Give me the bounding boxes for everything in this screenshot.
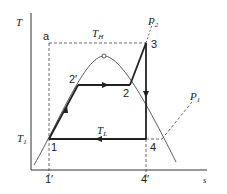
ts-diagram: T s a TH P2 3 2′ 2 P1 TL T1 1 4 1′ 4′ — [0, 0, 227, 194]
p1-label: P1 — [189, 90, 200, 104]
point-2-label: 2 — [123, 87, 129, 99]
th-label: TH — [92, 27, 104, 41]
point-1prime-label: 1′ — [45, 173, 53, 185]
x-axis-label: s — [203, 175, 207, 185]
tl-label: TL — [97, 124, 107, 138]
point-1-label: 1 — [51, 141, 57, 153]
point-4prime-label: 4′ — [141, 173, 149, 185]
arrow-3-4 — [143, 91, 149, 98]
process-2-3 — [130, 43, 146, 85]
point-2prime-label: 2′ — [69, 73, 77, 85]
point-4-label: 4 — [150, 141, 156, 153]
critical-point — [102, 54, 106, 58]
t1-label: T1 — [17, 132, 27, 146]
p2-label: P2 — [147, 15, 159, 29]
arrow-2prime-2 — [102, 82, 109, 88]
point-3-label: 3 — [151, 38, 157, 50]
y-axis-label: T — [16, 16, 23, 28]
p1-line-dashed — [162, 102, 192, 139]
point-a-label: a — [43, 30, 50, 42]
arrow-4-1 — [95, 136, 102, 142]
